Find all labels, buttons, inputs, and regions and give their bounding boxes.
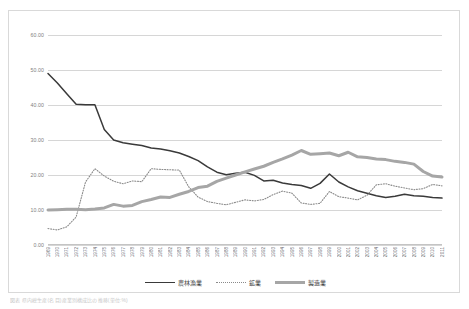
legend-label: 鉱業 (249, 278, 261, 287)
x-axis-tick-label: 1996 (299, 247, 304, 257)
chart-area: 0.0010.0020.0030.0040.0050.0060.00 19691… (9, 11, 461, 294)
x-axis-tick-label: 1989 (233, 247, 238, 257)
x-axis-tick-label: 2005 (383, 247, 388, 257)
x-axis-tick-label: 2003 (365, 247, 370, 257)
x-axis-tick-label: 1991 (252, 247, 257, 257)
x-axis-tick-label: 2011 (440, 247, 445, 257)
legend-swatch-icon (216, 282, 246, 283)
x-axis-tick-label: 1993 (271, 247, 276, 257)
x-axis-tick-label: 1969 (46, 247, 51, 257)
y-axis-tick-label: 20.00 (31, 172, 44, 178)
y-axis-tick-label: 30.00 (31, 137, 44, 143)
chart-legend: 農林漁業鉱業製造業 (9, 275, 461, 289)
x-axis-tick-label: 1980 (149, 247, 154, 257)
x-axis-tick-label: 1975 (102, 247, 107, 257)
x-axis-tick-label: 2008 (412, 247, 417, 257)
plot-region: 0.0010.0020.0030.0040.0050.0060.00 (48, 35, 442, 245)
x-axis-tick-label: 2007 (402, 247, 407, 257)
series-lines (48, 35, 442, 245)
x-axis-tick-label: 1978 (130, 247, 135, 257)
x-axis-tick-label: 1981 (158, 247, 163, 257)
x-axis-tick-label: 1997 (308, 247, 313, 257)
x-axis-tick-label: 1974 (93, 247, 98, 257)
x-axis-tick-label: 2000 (337, 247, 342, 257)
y-axis-tick-label: 40.00 (31, 102, 44, 108)
x-axis-tick-label: 1999 (327, 247, 332, 257)
legend-item[interactable]: 農林漁業 (145, 278, 202, 287)
gridline (48, 245, 442, 246)
figure-caption: 図表 県内総生産(名目)産業別構成比の推移(単位:%) (10, 296, 460, 303)
x-axis-tick-label: 1990 (243, 247, 248, 257)
x-axis-tick-label: 1986 (205, 247, 210, 257)
y-axis-tick-label: 50.00 (31, 67, 44, 73)
y-axis-tick-label: 0.00 (34, 242, 45, 248)
x-axis-tick-label: 1979 (140, 247, 145, 257)
x-axis-tick-label: 1971 (64, 247, 69, 257)
legend-item[interactable]: 鉱業 (216, 278, 261, 287)
x-axis-tick-label: 2010 (430, 247, 435, 257)
x-axis-tick-label: 1973 (83, 247, 88, 257)
legend-label: 製造業 (308, 278, 326, 287)
x-axis-tick-label: 1988 (224, 247, 229, 257)
series-line (48, 151, 442, 211)
x-axis-tick-label: 2001 (346, 247, 351, 257)
figure-frame: 0.0010.0020.0030.0040.0050.0060.00 19691… (8, 10, 460, 293)
x-axis-tick-label: 1995 (290, 247, 295, 257)
x-axis-tick-label: 1985 (196, 247, 201, 257)
y-axis-tick-label: 10.00 (31, 207, 44, 213)
x-axis-labels: 1969197019711972197319741975197619771978… (48, 247, 442, 273)
x-axis-tick-label: 2004 (374, 247, 379, 257)
legend-swatch-icon (145, 282, 175, 283)
chart-screenshot: 0.0010.0020.0030.0040.0050.0060.00 19691… (0, 0, 469, 309)
x-axis-tick-label: 1987 (215, 247, 220, 257)
x-axis-tick-label: 2002 (355, 247, 360, 257)
x-axis-tick-label: 1977 (121, 247, 126, 257)
x-axis-tick-label: 1992 (261, 247, 266, 257)
x-axis-tick-label: 1983 (177, 247, 182, 257)
series-line (48, 169, 442, 230)
x-axis-tick-label: 2009 (421, 247, 426, 257)
x-axis-tick-label: 2006 (393, 247, 398, 257)
legend-item[interactable]: 製造業 (275, 278, 326, 287)
x-axis-tick-label: 1994 (280, 247, 285, 257)
x-axis-tick-label: 1982 (168, 247, 173, 257)
x-axis-tick-label: 1984 (186, 247, 191, 257)
x-axis-tick-label: 1976 (111, 247, 116, 257)
x-axis-tick-label: 1970 (55, 247, 60, 257)
y-axis-tick-label: 60.00 (31, 32, 44, 38)
legend-label: 農林漁業 (178, 278, 202, 287)
series-line (48, 74, 442, 199)
x-axis-tick-label: 1998 (318, 247, 323, 257)
x-axis-tick-label: 1972 (74, 247, 79, 257)
legend-swatch-icon (275, 281, 305, 284)
